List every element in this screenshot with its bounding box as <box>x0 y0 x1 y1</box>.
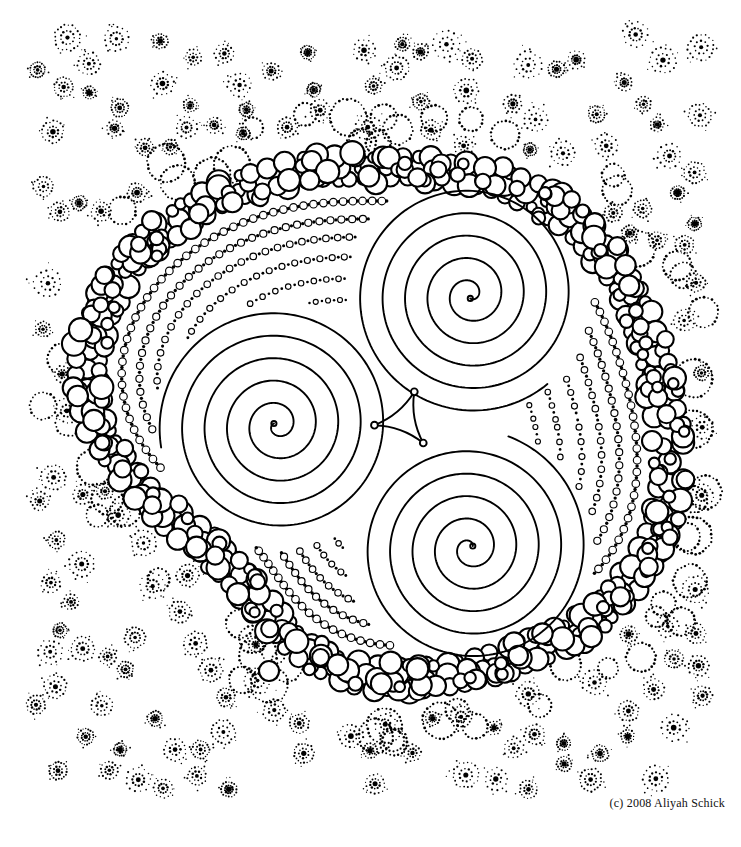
artwork-canvas: (c) 2008 Aliyah Schick <box>0 0 741 847</box>
copyright-credit: (c) 2008 Aliyah Schick <box>610 796 725 811</box>
mandala-drawing <box>0 0 741 847</box>
